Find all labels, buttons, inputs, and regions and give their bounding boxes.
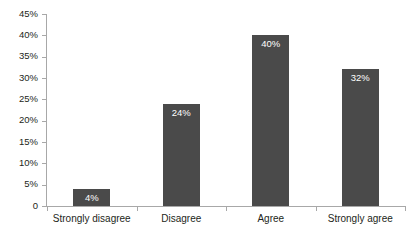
y-axis-tick-label: 40% [0, 30, 38, 40]
y-axis-tick-mark [42, 14, 47, 15]
x-axis-tick-mark [316, 206, 317, 211]
y-axis-tick-label: 45% [0, 9, 38, 19]
bar-value-label: 24% [163, 107, 200, 118]
bar[interactable] [163, 104, 200, 206]
x-axis-category-label: Strongly disagree [47, 212, 137, 225]
x-axis-category-label: Strongly agree [316, 212, 406, 225]
y-axis-tick-label: 15% [0, 137, 38, 147]
y-axis-tick-mark [42, 185, 47, 186]
y-axis-tick-mark [42, 142, 47, 143]
bar[interactable] [342, 69, 379, 206]
bar[interactable] [252, 35, 289, 206]
y-axis-tick-mark [42, 99, 47, 100]
y-axis-tick-mark [42, 121, 47, 122]
y-axis-tick-label: 25% [0, 94, 38, 104]
y-axis-tick-mark [42, 57, 47, 58]
bar-value-label: 4% [73, 192, 110, 203]
bar-value-label: 40% [252, 38, 289, 49]
bar-value-label: 32% [342, 72, 379, 83]
y-axis-tick-label: 35% [0, 51, 38, 61]
x-axis-tick-mark [405, 206, 406, 211]
y-axis-tick-label: 30% [0, 73, 38, 83]
x-axis-category-label: Disagree [137, 212, 227, 225]
y-axis-tick-mark [42, 35, 47, 36]
x-axis-tick-mark [137, 206, 138, 211]
y-axis-tick-label: 5% [0, 179, 38, 189]
x-axis-tick-mark [226, 206, 227, 211]
x-axis-tick-mark [47, 206, 48, 211]
bar-chart: 45%40%35%30%25%20%15%10%5%0 4%24%40%32% … [0, 0, 414, 237]
x-axis-category-label: Agree [226, 212, 316, 225]
y-axis-tick-label: 0 [0, 201, 38, 211]
y-axis-tick-label: 20% [0, 115, 38, 125]
y-axis-tick-mark [42, 163, 47, 164]
y-axis-tick-mark [42, 78, 47, 79]
y-axis-tick-label: 10% [0, 158, 38, 168]
y-axis-line [46, 14, 47, 206]
